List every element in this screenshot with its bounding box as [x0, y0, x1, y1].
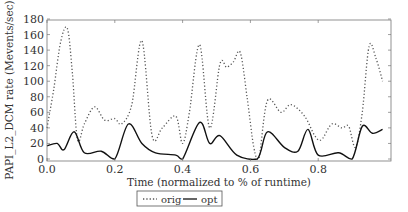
y-tick-label: 80	[30, 91, 44, 104]
y-tick-label: 180	[23, 13, 44, 26]
y-tick-label: 100	[23, 75, 44, 88]
legend-item-opt: opt	[201, 194, 217, 205]
y-tick-label: 60	[30, 106, 44, 119]
x-tick-label: 0.0	[38, 163, 56, 176]
y-axis-label: PAPI_L2_DCM rate (Mevents/sec)	[3, 0, 16, 179]
x-tick-label: 0.6	[242, 163, 260, 176]
legend: orig opt	[137, 191, 222, 206]
line-chart: 020406080100120140160180 0.00.20.40.60.8…	[0, 0, 408, 212]
x-tick-label: 0.8	[309, 163, 327, 176]
y-tick-label: 40	[30, 122, 44, 135]
y-tick-label: 120	[23, 60, 44, 73]
x-tick-label: 0.4	[174, 163, 192, 176]
y-tick-label: 20	[30, 137, 44, 150]
y-tick-label: 160	[23, 29, 44, 42]
x-tick-label: 0.2	[106, 163, 124, 176]
legend-item-orig: orig	[161, 194, 182, 205]
x-axis-label: Time (normalized to % of runtime)	[127, 176, 311, 188]
y-tick-label: 140	[23, 44, 44, 57]
